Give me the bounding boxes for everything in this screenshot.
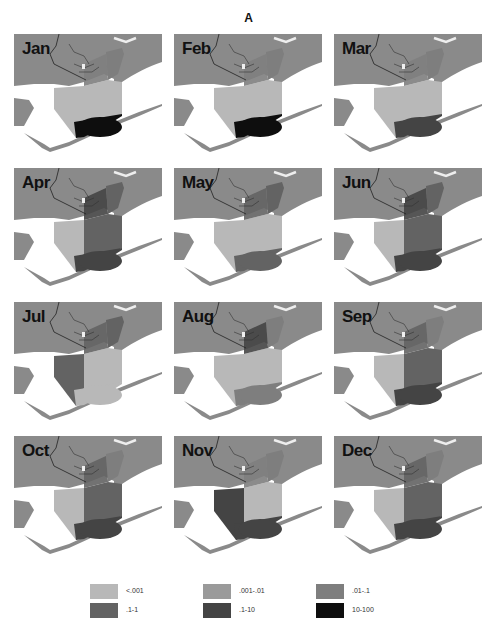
map-panel-sep: Sep	[334, 302, 482, 420]
map-panel-oct: Oct	[14, 436, 162, 554]
legend-swatch	[316, 603, 344, 618]
map-panel-mar: Mar	[334, 34, 482, 152]
map-panel-jul: Jul	[14, 302, 162, 420]
legend-label: .1-1	[126, 606, 138, 613]
month-label: Apr	[22, 173, 50, 193]
month-label: Feb	[182, 39, 211, 59]
legend-label: <.001	[126, 587, 144, 594]
legend-swatch	[90, 584, 118, 599]
month-label: Mar	[342, 39, 371, 59]
map-panel-nov: Nov	[174, 436, 322, 554]
month-label: Sep	[342, 307, 372, 327]
month-label: Aug	[182, 307, 214, 327]
month-label: Nov	[182, 441, 213, 461]
legend-swatch	[203, 603, 231, 618]
legend-label: .1-10	[239, 606, 255, 613]
month-label: May	[182, 173, 214, 193]
legend-swatch	[316, 584, 344, 599]
month-label: Dec	[342, 441, 372, 461]
month-label: Jun	[342, 173, 371, 193]
legend-label: .01-.1	[352, 587, 370, 594]
map-panel-apr: Apr	[14, 168, 162, 286]
month-label: Oct	[22, 441, 49, 461]
map-panel-may: May	[174, 168, 322, 286]
map-panel-aug: Aug	[174, 302, 322, 420]
month-label: Jan	[22, 39, 50, 59]
map-panel-jun: Jun	[334, 168, 482, 286]
map-panel-jan: Jan	[14, 34, 162, 152]
map-panel-dec: Dec	[334, 436, 482, 554]
figure-label: A	[0, 11, 497, 25]
legend-label: 10-100	[352, 606, 374, 613]
legend-swatch	[203, 584, 231, 599]
month-label: Jul	[22, 307, 45, 327]
map-panel-feb: Feb	[174, 34, 322, 152]
legend-swatch	[90, 603, 118, 618]
legend-label: .001-.01	[239, 587, 265, 594]
